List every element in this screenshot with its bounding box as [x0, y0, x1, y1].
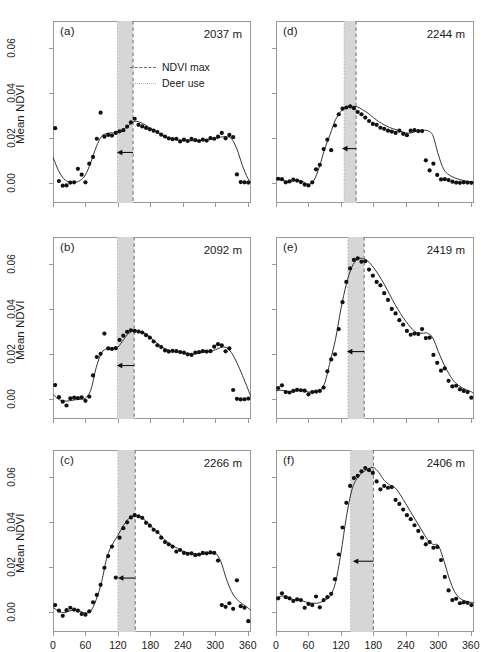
data-point: [95, 137, 99, 141]
fitted-curve: [276, 106, 474, 184]
data-point: [428, 336, 432, 340]
panel-c-elevation: 2266 m: [204, 457, 242, 469]
data-point: [359, 112, 363, 116]
data-point: [99, 583, 103, 587]
y-tick-mark: [49, 138, 53, 139]
data-point: [356, 110, 360, 114]
data-point: [129, 328, 133, 332]
data-point: [352, 476, 356, 480]
data-point: [295, 597, 299, 601]
panel-f-elevation: 2406 m: [427, 457, 465, 469]
data-point: [72, 607, 76, 611]
data-point: [393, 311, 397, 315]
data-point: [163, 348, 167, 352]
panel-b-tag: (b): [60, 241, 75, 253]
y-tick-mark: [272, 183, 276, 184]
x-tick-mark: [406, 203, 407, 207]
x-tick-label: 60: [71, 639, 99, 651]
x-tick-mark: [183, 632, 184, 636]
data-point: [57, 395, 61, 399]
data-point: [197, 350, 201, 354]
panel-a-plot: [53, 21, 251, 203]
data-point: [382, 127, 386, 131]
data-point: [174, 549, 178, 553]
data-point: [193, 350, 197, 354]
data-point: [462, 600, 466, 604]
data-point: [340, 300, 344, 304]
data-point: [367, 119, 371, 123]
x-tick-mark: [215, 203, 216, 207]
data-point: [428, 540, 432, 544]
x-tick-mark: [438, 419, 439, 423]
data-point: [144, 521, 148, 525]
data-point: [424, 158, 428, 162]
data-point: [227, 601, 231, 605]
data-point: [458, 387, 462, 391]
data-point: [216, 558, 220, 562]
data-point: [242, 397, 246, 401]
data-point: [462, 389, 466, 393]
data-point: [397, 318, 401, 322]
data-point: [140, 330, 144, 334]
figure-root: (a) 2037 m NDVI max Deer use (b) 2092 m …: [0, 0, 496, 652]
deer-use-band: [344, 21, 356, 203]
panel-e-elevation: 2419 m: [427, 244, 465, 256]
data-point: [412, 128, 416, 132]
x-tick-label: 0: [262, 639, 290, 651]
data-point: [450, 384, 454, 388]
x-tick-label: 60: [294, 639, 322, 651]
x-tick-mark: [183, 419, 184, 423]
data-point: [125, 125, 129, 129]
data-point: [102, 566, 106, 570]
data-point: [276, 596, 280, 600]
data-point: [280, 177, 284, 181]
x-tick-label: 180: [359, 639, 387, 651]
data-point: [64, 403, 68, 407]
x-tick-mark: [150, 203, 151, 207]
data-point: [242, 606, 246, 610]
data-point: [208, 550, 212, 554]
data-point: [227, 346, 231, 350]
data-point: [239, 604, 243, 608]
data-point: [83, 613, 87, 617]
data-point: [393, 131, 397, 135]
data-point: [458, 601, 462, 605]
deer-use-band: [117, 237, 134, 419]
x-tick-mark: [438, 632, 439, 636]
data-point: [287, 179, 291, 183]
data-point: [420, 327, 424, 331]
data-point: [306, 392, 310, 396]
data-point: [363, 259, 367, 263]
data-point: [344, 280, 348, 284]
data-point: [110, 545, 114, 549]
data-point: [167, 349, 171, 353]
data-point: [144, 126, 148, 130]
data-point: [136, 123, 140, 127]
legend-label-ndvi-max: NDVI max: [162, 60, 210, 74]
data-point: [201, 551, 205, 555]
data-point: [53, 603, 57, 607]
data-point: [367, 267, 371, 271]
data-point: [450, 598, 454, 602]
data-point: [102, 332, 106, 336]
x-tick-mark: [85, 632, 86, 636]
data-point: [223, 136, 227, 140]
data-point: [205, 551, 209, 555]
data-point: [276, 386, 280, 390]
data-point: [231, 607, 235, 611]
data-point: [193, 138, 197, 142]
data-point: [340, 107, 344, 111]
data-point: [91, 600, 95, 604]
data-point: [114, 346, 118, 350]
data-point: [235, 172, 239, 176]
ndvi-max-line-icon: [130, 67, 156, 68]
data-point: [167, 542, 171, 546]
y-tick-mark: [272, 567, 276, 568]
data-point: [435, 361, 439, 365]
data-point: [178, 548, 182, 552]
data-point: [148, 524, 152, 528]
data-point: [322, 598, 326, 602]
x-tick-mark: [276, 632, 277, 636]
data-point: [446, 379, 450, 383]
data-point: [431, 162, 435, 166]
